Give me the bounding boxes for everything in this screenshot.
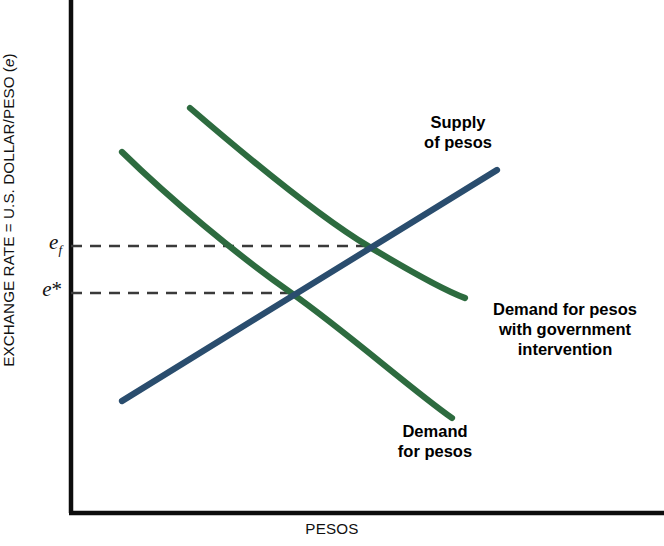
y-tick-e-star-asterisk: * bbox=[52, 277, 63, 301]
exchange-rate-chart: EXCHANGE RATE = U.S. DOLLAR/PESO (e) PES… bbox=[0, 0, 664, 546]
y-tick-label-ef: ef bbox=[0, 230, 62, 258]
supply-curve-label-line2: of pesos bbox=[393, 132, 523, 152]
demand-curve-label-line2: for pesos bbox=[372, 441, 498, 461]
y-tick-e-star-base: e bbox=[42, 277, 51, 301]
demand-curve-label: Demand for pesos bbox=[372, 421, 498, 461]
y-axis-title-tail: ) bbox=[0, 53, 17, 58]
y-axis-title-italic-e: e bbox=[0, 58, 17, 67]
x-axis-title: PESOS bbox=[0, 520, 664, 537]
demand-intervention-label-line3: intervention bbox=[470, 339, 660, 359]
supply-curve-label-line1: Supply bbox=[393, 112, 523, 132]
supply-curve-label: Supply of pesos bbox=[393, 112, 523, 152]
demand-intervention-curve-label: Demand for pesos with government interve… bbox=[470, 299, 660, 359]
demand-intervention-label-line1: Demand for pesos bbox=[470, 299, 660, 319]
demand-intervention-label-line2: with government bbox=[470, 319, 660, 339]
demand-curve-label-line1: Demand bbox=[372, 421, 498, 441]
y-tick-ef-subscript: f bbox=[58, 242, 62, 257]
plot-area bbox=[0, 0, 664, 546]
y-tick-ef-base: e bbox=[49, 230, 58, 254]
y-axis-title-main: EXCHANGE RATE = U.S. DOLLAR/PESO ( bbox=[0, 67, 17, 367]
y-tick-label-e-star: e* bbox=[0, 277, 62, 302]
